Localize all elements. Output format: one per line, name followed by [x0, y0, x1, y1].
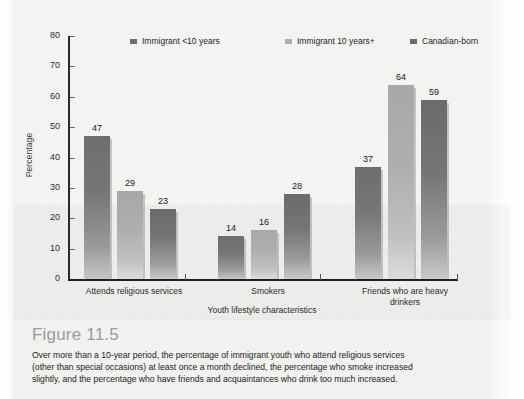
x-tick-mark: [320, 274, 321, 280]
bar-shadow: [447, 103, 449, 280]
page-margin-text: ·····: [508, 312, 524, 321]
bar-shadow: [110, 139, 112, 280]
y-tick-label: 10: [36, 243, 60, 253]
bar: [251, 230, 277, 279]
y-tick-mark: [70, 66, 75, 67]
bar-chart: Percentage 80706050403020100 47292314162…: [0, 0, 524, 300]
y-tick-mark: [70, 249, 75, 250]
legend-item[interactable]: Immigrant <10 years: [130, 36, 220, 46]
bar-fill: [117, 191, 143, 279]
y-tick-label: 30: [36, 182, 60, 192]
y-tick-label: 80: [36, 30, 60, 40]
bar-value-label: 37: [349, 154, 387, 164]
bar-value-label: 23: [144, 196, 182, 206]
legend-label: Immigrant 10 years+: [297, 36, 375, 46]
figure-caption-line: slightly, and the percentage who have fr…: [32, 373, 478, 385]
figure-caption-line: Over more than a 10-year period, the per…: [32, 349, 478, 361]
legend-label: Canadian-born: [422, 36, 478, 46]
bar-value-label: 64: [382, 72, 420, 82]
bar: [218, 236, 244, 279]
y-tick-label: 50: [36, 121, 60, 131]
bar: [421, 100, 447, 279]
x-axis-title: Youth lifestyle characteristics: [0, 305, 524, 315]
x-category-label: Smokers: [208, 286, 328, 297]
y-tick-mark: [70, 158, 75, 159]
bar-value-label: 28: [278, 181, 316, 191]
bar-shadow: [310, 197, 312, 280]
x-category-label-line: Smokers: [208, 286, 328, 297]
legend-item[interactable]: Immigrant 10 years+: [285, 36, 375, 46]
y-tick-mark: [70, 127, 75, 128]
bar-fill: [84, 136, 110, 279]
bar: [84, 136, 110, 279]
legend-label: Immigrant <10 years: [142, 36, 220, 46]
x-category-label: Attends religious services: [74, 286, 194, 297]
x-tick-mark: [457, 274, 458, 280]
bar-fill: [251, 230, 277, 279]
bar-fill: [284, 194, 310, 279]
x-category-label-line: Attends religious services: [74, 286, 194, 297]
legend-swatch-icon: [285, 39, 292, 44]
x-tick-mark: [185, 274, 186, 280]
figure-caption-line: (other than special occasions) at least …: [32, 361, 478, 373]
bar-shadow: [244, 239, 246, 280]
bar-shadow: [277, 233, 279, 280]
legend-item[interactable]: Canadian-born: [410, 36, 478, 46]
bar-shadow: [381, 170, 383, 280]
y-tick-label: 20: [36, 212, 60, 222]
figure-caption: Over more than a 10-year period, the per…: [32, 349, 478, 386]
y-tick-label: 40: [36, 152, 60, 162]
y-tick-label: 70: [36, 60, 60, 70]
y-tick-mark: [70, 97, 75, 98]
bar-shadow: [414, 88, 416, 280]
y-axis-title: Percentage: [24, 110, 34, 200]
y-axis-line: [68, 36, 70, 280]
y-tick-mark: [70, 188, 75, 189]
y-tick-label: 0: [36, 273, 60, 283]
bar: [355, 167, 381, 279]
bar-fill: [218, 236, 244, 279]
legend-swatch-icon: [410, 39, 417, 44]
bar: [388, 85, 414, 279]
bar: [150, 209, 176, 279]
x-axis-line: [68, 279, 458, 281]
figure-heading: Figure 11.5: [32, 325, 119, 345]
bar-fill: [421, 100, 447, 279]
bar: [117, 191, 143, 279]
bar-fill: [355, 167, 381, 279]
bar-value-label: 29: [111, 178, 149, 188]
figure-page: Percentage 80706050403020100 47292314162…: [0, 0, 524, 399]
bar-fill: [388, 85, 414, 279]
bar-shadow: [176, 212, 178, 280]
bar-fill: [150, 209, 176, 279]
bar: [284, 194, 310, 279]
y-tick-label: 60: [36, 91, 60, 101]
chart-legend: Immigrant <10 yearsImmigrant 10 years+Ca…: [130, 36, 460, 52]
y-tick-mark: [70, 36, 75, 37]
y-tick-mark: [70, 218, 75, 219]
bar-value-label: 47: [78, 123, 116, 133]
legend-swatch-icon: [130, 39, 137, 44]
bar-value-label: 16: [245, 217, 283, 227]
x-category-label-line: Friends who are heavy: [345, 286, 465, 297]
bar-value-label: 59: [415, 87, 453, 97]
bar-shadow: [143, 194, 145, 280]
